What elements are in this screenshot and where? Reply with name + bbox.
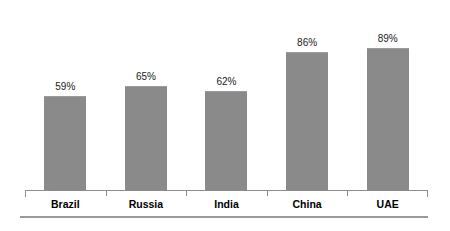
category-label-russia: Russia xyxy=(106,196,187,212)
bar-value-label: 86% xyxy=(297,37,317,48)
category-label-china: China xyxy=(267,196,348,212)
category-label-brazil: Brazil xyxy=(25,196,106,212)
bar-group: 62% xyxy=(186,8,267,190)
bar-group: 89% xyxy=(347,8,428,190)
category-label-row: BrazilRussiaIndiaChinaUAE xyxy=(25,196,428,214)
bar-chart: 59%65%62%86%89% BrazilRussiaIndiaChinaUA… xyxy=(0,0,450,231)
category-axis-line xyxy=(25,190,428,191)
bar-column[interactable]: 59% xyxy=(44,8,86,190)
bar-rect[interactable] xyxy=(44,96,86,190)
bar-column[interactable]: 65% xyxy=(125,8,167,190)
bar-value-label: 59% xyxy=(55,81,75,92)
bar-group: 86% xyxy=(267,8,348,190)
bar-group: 59% xyxy=(25,8,106,190)
plot-area: 59%65%62%86%89% xyxy=(25,8,428,190)
bar-column[interactable]: 62% xyxy=(205,8,247,190)
bar-value-label: 89% xyxy=(378,33,398,44)
bottom-divider xyxy=(20,216,428,218)
bar-value-label: 62% xyxy=(216,76,236,87)
bar-value-label: 65% xyxy=(136,71,156,82)
bar-column[interactable]: 89% xyxy=(367,8,409,190)
bar-rect[interactable] xyxy=(286,52,328,190)
bar-column[interactable]: 86% xyxy=(286,8,328,190)
bar-rect[interactable] xyxy=(125,86,167,190)
category-label-india: India xyxy=(186,196,267,212)
bar-rect[interactable] xyxy=(205,91,247,190)
bar-rect[interactable] xyxy=(367,48,409,190)
bar-group: 65% xyxy=(106,8,187,190)
category-label-uae: UAE xyxy=(347,196,428,212)
